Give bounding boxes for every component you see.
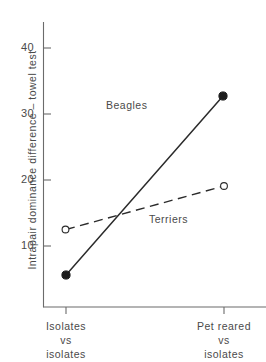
y-axis-ticks: [44, 48, 52, 246]
series-label-terriers: Terriers: [149, 213, 188, 225]
x-axis-ticks: [66, 307, 224, 314]
terriers-line: [66, 186, 224, 230]
x-category-isolates-line1: Isolates: [16, 319, 116, 333]
x-category-pet-reared-line3: isolates: [174, 347, 266, 361]
terriers-point-pet-reared: [221, 183, 228, 190]
series-label-beagles: Beagles: [106, 99, 147, 111]
x-category-pet-reared-line1: Pet reared: [174, 319, 266, 333]
x-category-isolates-line2: vs: [16, 333, 116, 347]
x-category-pet-reared-line2: vs: [174, 333, 266, 347]
beagles-point-pet-reared: [219, 92, 227, 100]
x-category-isolates-line3: isolates: [16, 347, 116, 361]
series-beagles: [62, 92, 227, 279]
series-terriers: [62, 183, 227, 233]
y-axis-title: Intrapair dominance difference – towel t…: [26, 40, 38, 280]
beagles-point-isolates: [62, 271, 70, 279]
plot-area: [0, 0, 266, 362]
beagles-line: [66, 96, 223, 275]
x-category-pet-reared: Pet reared vs isolates: [174, 319, 266, 361]
x-category-isolates: Isolates vs isolates: [16, 319, 116, 361]
chart-figure: 40 30 20 10 Intrapair dominance differen…: [0, 0, 266, 362]
terriers-point-isolates: [62, 226, 69, 233]
